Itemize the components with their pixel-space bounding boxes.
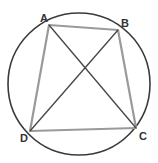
vertex-label-c: C (139, 130, 147, 142)
vertex-label-b: B (121, 17, 129, 29)
cyclic-quadrilateral-diagram: A B C D (0, 0, 158, 163)
side-bc (118, 30, 136, 128)
side-ab (49, 25, 118, 30)
side-da (30, 25, 49, 131)
side-cd (30, 128, 136, 131)
diagonal-bd (30, 30, 118, 131)
diagonal-ac (49, 25, 136, 128)
vertex-label-a: A (40, 12, 48, 24)
vertex-label-d: D (20, 132, 28, 144)
